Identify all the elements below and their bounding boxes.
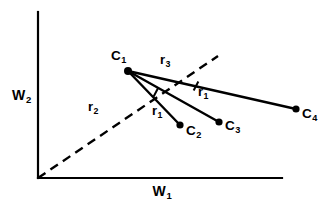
distance-label-r1-right: r1 (198, 85, 208, 98)
point-C3[interactable] (215, 118, 222, 125)
distance-label-r2-base: r (88, 99, 93, 114)
point-label-C1-base: C (111, 48, 121, 63)
distance-label-r1-right-base: r (198, 84, 203, 99)
y-axis-label: W2 (12, 88, 31, 102)
diagram-svg (0, 0, 330, 207)
point-label-C2-base: C (186, 123, 196, 138)
point-label-C3: C3 (225, 119, 240, 133)
point-label-C1-subscript: 1 (121, 55, 126, 65)
y-axis-label-base: W (12, 87, 25, 103)
point-C1[interactable] (124, 67, 132, 75)
point-label-C3-base: C (225, 118, 235, 133)
point-label-C2: C2 (186, 124, 201, 138)
distance-label-r1-lower-subscript: 1 (158, 110, 163, 120)
point-C4[interactable] (292, 105, 299, 112)
tick-tick-on-C1-C3 (154, 88, 159, 97)
x-axis-label-base: W (153, 183, 166, 199)
distance-label-r3-subscript: 3 (166, 59, 171, 69)
point-label-C3-subscript: 3 (235, 125, 240, 135)
distance-label-r2-subscript: 2 (94, 106, 99, 116)
distance-label-r1-right-subscript: 1 (204, 91, 209, 101)
x-axis-label: W1 (153, 184, 172, 198)
y-axis-label-subscript: 2 (26, 94, 32, 105)
distance-label-r3: r3 (160, 53, 170, 66)
x-axis-label-subscript: 1 (166, 190, 172, 201)
distance-label-r2: r2 (88, 100, 98, 113)
distance-label-r1-lower-base: r (152, 103, 157, 118)
point-label-C1: C1 (111, 49, 126, 63)
point-C2[interactable] (176, 121, 183, 128)
distance-label-r3-base: r (160, 52, 165, 67)
point-label-C4-subscript: 4 (312, 113, 317, 123)
point-label-C4-base: C (302, 106, 312, 121)
figure-canvas: W1W2C1C2C3C4r1r1r2r3 (0, 0, 330, 207)
axes-group (38, 12, 282, 178)
point-label-C2-subscript: 2 (196, 130, 201, 140)
point-label-C4: C4 (302, 107, 317, 121)
distance-label-r1-lower: r1 (152, 104, 162, 117)
